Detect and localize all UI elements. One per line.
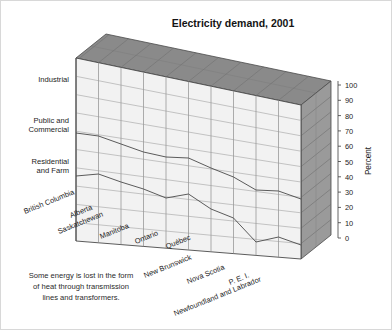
footnote-line-3: lines and transformers. [42, 293, 119, 302]
series-label-residential-line2: and Farm [37, 166, 70, 175]
percent-axis: 100 90 80 70 60 50 40 30 20 10 0 Percent [338, 81, 373, 243]
footnote-line-2: of heat through transmission [33, 282, 129, 291]
percent-axis-title: Percent [364, 146, 373, 175]
percent-tick-90: 90 [345, 96, 353, 105]
series-label-industrial: Industrial [38, 75, 69, 84]
block-side-face [301, 81, 331, 259]
percent-tick-70: 70 [345, 127, 353, 136]
province-label-nova-scotia: Nova Scotia [185, 262, 226, 286]
footnote-line-1: Some energy is lost in the form [29, 271, 134, 280]
percent-tick-30: 30 [345, 188, 353, 197]
electricity-demand-3d-chart: Electricity demand, 2001 [1, 1, 392, 330]
series-category-labels: Industrial Public and Commercial Residen… [28, 75, 69, 175]
series-label-public-commercial-line2: Commercial [28, 125, 69, 134]
chart-title: Electricity demand, 2001 [172, 17, 295, 29]
percent-tick-50: 50 [345, 158, 353, 167]
chart-footnote: Some energy is lost in the form of heat … [29, 271, 134, 302]
series-label-public-commercial-line1: Public and [34, 116, 69, 125]
percent-tick-0: 0 [345, 234, 349, 243]
series-label-residential-line1: Residential [31, 157, 69, 166]
percent-tick-10: 10 [345, 219, 353, 228]
percent-tick-40: 40 [345, 173, 353, 182]
province-label-new-brunswick: New Brunswick [142, 252, 192, 279]
figure-container: Electricity demand, 2001 [0, 0, 392, 330]
percent-tick-100: 100 [345, 81, 357, 90]
percent-tick-60: 60 [345, 142, 353, 151]
percent-tick-20: 20 [345, 203, 353, 212]
percent-tick-80: 80 [345, 112, 353, 121]
